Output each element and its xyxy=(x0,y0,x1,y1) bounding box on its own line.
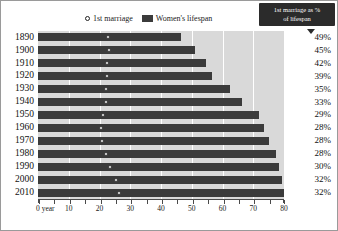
chart-row xyxy=(38,44,284,57)
percent-value: 35% xyxy=(291,83,335,96)
y-axis-label: 1990 xyxy=(3,160,36,173)
legend-item-lifespan: Women's lifespan xyxy=(142,14,213,23)
chart-figure: 1st marriage Women's lifespan 1st marria… xyxy=(0,0,338,231)
callout-line-1: 1st marriage as % xyxy=(261,5,333,14)
percent-value: 32% xyxy=(291,173,335,186)
lifespan-bar xyxy=(38,150,276,158)
percent-value: 42% xyxy=(291,57,335,70)
chart-row xyxy=(38,57,284,70)
legend-item-1st-marriage: 1st marriage xyxy=(85,14,133,23)
marriage-age-marker xyxy=(114,178,118,182)
chart-row xyxy=(38,83,284,96)
y-axis-labels: 1890190019101920193019401950196019701980… xyxy=(3,31,36,199)
marriage-age-marker xyxy=(101,113,105,117)
plot-area xyxy=(38,31,284,199)
y-axis-label: 1980 xyxy=(3,147,36,160)
percent-value: 28% xyxy=(291,134,335,147)
x-axis-label: 60 xyxy=(219,204,227,213)
marriage-age-marker xyxy=(117,191,121,195)
x-axis-label: 10 xyxy=(65,204,73,213)
percent-value: 32% xyxy=(291,186,335,199)
marriage-age-marker xyxy=(99,126,103,130)
x-axis-label: 80 xyxy=(280,204,288,213)
y-axis-label: 1970 xyxy=(3,134,36,147)
lifespan-bar xyxy=(38,111,259,119)
y-axis-label: 1890 xyxy=(3,31,36,44)
chart-row xyxy=(38,121,284,134)
bar-rows xyxy=(38,31,284,199)
y-axis-label: 2010 xyxy=(3,186,36,199)
percent-value: 30% xyxy=(291,160,335,173)
y-axis-label: 1960 xyxy=(3,121,36,134)
marriage-age-marker xyxy=(100,139,104,143)
chart-row xyxy=(38,134,284,147)
lifespan-bar xyxy=(38,189,284,197)
y-axis-label: 1950 xyxy=(3,109,36,122)
callout-badge: 1st marriage as % of lifespan xyxy=(259,3,335,26)
marriage-age-marker xyxy=(104,152,108,156)
percent-value: 49% xyxy=(291,31,335,44)
y-axis-label: 1930 xyxy=(3,83,36,96)
y-axis-label: 1920 xyxy=(3,70,36,83)
percent-value: 28% xyxy=(291,147,335,160)
marriage-age-marker xyxy=(107,48,111,52)
percent-value: 45% xyxy=(291,44,335,57)
x-axis-label: 40 xyxy=(157,204,165,213)
marriage-age-marker xyxy=(105,74,109,78)
y-axis-label: 1940 xyxy=(3,96,36,109)
x-axis-labels: 0 year1020304050607080 xyxy=(1,204,338,216)
x-axis-label: 30 xyxy=(127,204,135,213)
lifespan-bar xyxy=(38,72,212,80)
chart-row xyxy=(38,186,284,199)
lifespan-bar xyxy=(38,137,269,145)
x-axis xyxy=(38,199,284,203)
lifespan-bar xyxy=(38,46,195,54)
x-axis-label: 50 xyxy=(188,204,196,213)
lifespan-bar xyxy=(38,85,230,93)
chart-row xyxy=(38,31,284,44)
legend-label-lifespan: Women's lifespan xyxy=(156,14,213,23)
legend-label-1st-marriage: 1st marriage xyxy=(93,14,133,23)
chart-row xyxy=(38,70,284,83)
x-axis-label-origin: 0 year xyxy=(36,204,55,213)
percent-value: 29% xyxy=(291,109,335,122)
x-axis-label: 70 xyxy=(250,204,258,213)
lifespan-bar xyxy=(38,98,242,106)
percent-column: 49%45%42%39%35%33%29%28%28%28%30%32%32% xyxy=(291,31,335,199)
lifespan-bar xyxy=(38,163,279,171)
x-axis-label: 20 xyxy=(96,204,104,213)
chart-row xyxy=(38,96,284,109)
callout-line-2: of lifespan xyxy=(261,14,333,23)
marriage-age-marker xyxy=(106,35,110,39)
y-axis-label: 1900 xyxy=(3,44,36,57)
chart-row xyxy=(38,160,284,173)
chart-row xyxy=(38,173,284,186)
chart-legend: 1st marriage Women's lifespan xyxy=(85,12,212,24)
marriage-age-marker xyxy=(104,100,108,104)
percent-value: 39% xyxy=(291,70,335,83)
marriage-age-marker xyxy=(105,61,109,65)
y-axis-label: 2000 xyxy=(3,173,36,186)
chart-row xyxy=(38,147,284,160)
chart-row xyxy=(38,109,284,122)
y-axis-label: 1910 xyxy=(3,57,36,70)
lifespan-bar xyxy=(38,124,264,132)
marriage-age-marker xyxy=(108,165,112,169)
lifespan-bar xyxy=(38,59,206,67)
lifespan-bar xyxy=(38,176,282,184)
marriage-marker-icon xyxy=(85,16,90,21)
percent-value: 28% xyxy=(291,121,335,134)
lifespan-swatch-icon xyxy=(142,15,153,22)
percent-value: 33% xyxy=(291,96,335,109)
marriage-age-marker xyxy=(104,87,108,91)
